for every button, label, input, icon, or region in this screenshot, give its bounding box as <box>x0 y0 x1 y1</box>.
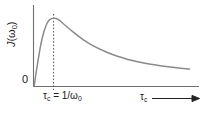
y-axis-label-text: J <box>5 42 17 48</box>
x-tick-omega-subscript: 0 <box>78 95 82 102</box>
y-axis-label-arg: (ω <box>5 29 17 41</box>
chart-canvas <box>0 0 204 118</box>
origin-label: 0 <box>22 74 28 85</box>
x-axis-label: τc <box>140 92 147 104</box>
x-axis-tick-label: τc = 1/ω0 <box>43 91 82 103</box>
y-axis-label-close: ) <box>5 21 17 25</box>
spectral-density-curve <box>34 18 189 86</box>
x-axis-arrow-head-icon <box>192 95 200 101</box>
x-tick-equation: = 1/ω <box>50 90 78 101</box>
y-axis-label: J(ω0) <box>6 12 19 56</box>
y-axis-label-subscript: 0 <box>10 25 19 29</box>
spectral-density-figure: J(ω0) 0 τc = 1/ω0 τc <box>0 0 204 118</box>
x-axis-label-subscript: c <box>144 96 147 103</box>
